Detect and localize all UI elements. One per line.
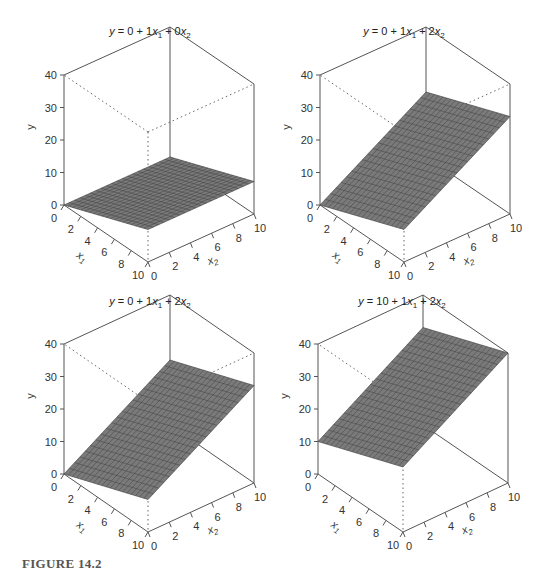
x2-tick-label: 10 [510, 222, 522, 234]
y-tick-label: 20 [45, 134, 57, 146]
x1-tick-label: 6 [356, 516, 362, 528]
x1-tick-label: 8 [118, 258, 124, 270]
x1-tick-label: 8 [373, 527, 379, 539]
y-tick-label: 10 [45, 167, 57, 179]
x2-tick-label: 0 [151, 270, 157, 282]
y-axis-label: y [280, 124, 292, 130]
y-tick-label: 10 [299, 436, 311, 448]
surface-panel-2: 010203040y0246810x10246810x2 [280, 27, 522, 282]
x1-tick-label: 10 [387, 539, 399, 551]
x1-tick-label: 10 [388, 269, 400, 281]
x1-tick-label: 10 [132, 539, 144, 551]
y-axis-label: y [24, 393, 36, 399]
x1-axis-label: x1 [72, 517, 89, 536]
y-tick-label: 0 [307, 199, 313, 211]
x2-axis-label: x2 [205, 521, 221, 539]
x2-tick-label: 4 [449, 251, 455, 263]
x1-tick-label: 2 [324, 223, 330, 235]
y-tick-label: 0 [51, 199, 57, 211]
x1-tick-label: 4 [341, 235, 347, 247]
y-tick-label: 10 [45, 436, 57, 448]
x2-tick-label: 0 [407, 270, 413, 282]
x1-tick-label: 0 [51, 212, 57, 224]
surface-panel-4: 010203040y0246810x10246810x2 [278, 295, 520, 552]
panel-title-2: y = 0 + 1x1 + 2x2 [363, 25, 444, 40]
y-tick-label: 40 [45, 338, 57, 350]
x1-tick-label: 4 [85, 504, 91, 516]
x1-tick-label: 2 [68, 223, 74, 235]
x2-tick-label: 0 [406, 540, 412, 552]
x1-tick-label: 6 [357, 246, 363, 258]
surface-panel-3: 010203040y0246810x10246810x2 [24, 295, 266, 552]
y-axis-label: y [24, 124, 36, 130]
x2-axis-label: x2 [459, 521, 475, 539]
panel-title-4: y = 10 + 1x1 + 2x2 [358, 295, 446, 310]
surface-panel-1: 010203040y0246810x10246810x2 [24, 27, 266, 282]
x2-tick-label: 6 [215, 241, 221, 253]
x1-tick-label: 10 [132, 269, 144, 281]
x2-tick-label: 2 [427, 530, 433, 542]
y-axis-label: y [278, 393, 290, 399]
x1-tick-label: 0 [51, 481, 57, 493]
x1-tick-label: 8 [374, 258, 380, 270]
x2-tick-label: 4 [193, 520, 199, 532]
x1-axis-label: x1 [72, 248, 89, 267]
x1-tick-label: 0 [307, 212, 313, 224]
x2-tick-label: 8 [490, 501, 496, 513]
x1-tick-label: 8 [118, 527, 124, 539]
y-tick-label: 40 [301, 69, 313, 81]
x2-tick-label: 8 [492, 232, 498, 244]
x1-axis-label: x1 [328, 248, 345, 267]
x2-tick-label: 2 [172, 530, 178, 542]
y-tick-label: 30 [45, 102, 57, 114]
x2-tick-label: 8 [236, 232, 242, 244]
y-tick-label: 20 [299, 403, 311, 415]
y-tick-label: 0 [305, 468, 311, 480]
x2-tick-label: 0 [151, 540, 157, 552]
x2-axis-label: x2 [461, 252, 477, 270]
x2-tick-label: 4 [193, 251, 199, 263]
x2-axis-label: x2 [205, 252, 221, 270]
y-tick-label: 0 [51, 468, 57, 480]
plots-canvas: 010203040y0246810x10246810x2010203040y02… [0, 0, 543, 578]
x2-tick-label: 10 [254, 491, 266, 503]
y-tick-label: 20 [301, 134, 313, 146]
x1-tick-label: 4 [85, 235, 91, 247]
y-tick-label: 30 [301, 102, 313, 114]
y-tick-label: 20 [45, 403, 57, 415]
x2-tick-label: 10 [254, 222, 266, 234]
x2-tick-label: 2 [428, 260, 434, 272]
y-tick-label: 40 [45, 69, 57, 81]
y-tick-label: 30 [299, 371, 311, 383]
x1-tick-label: 6 [101, 246, 107, 258]
x1-tick-label: 2 [68, 493, 74, 505]
x1-axis-label: x1 [327, 517, 344, 536]
x2-tick-label: 6 [471, 241, 477, 253]
x2-tick-label: 6 [469, 511, 475, 523]
x1-tick-label: 6 [101, 516, 107, 528]
panel-title-3: y = 0 + 1x1 + 2x2 [109, 295, 190, 310]
x1-tick-label: 4 [339, 504, 345, 516]
x2-tick-label: 10 [508, 491, 520, 503]
y-tick-label: 40 [299, 338, 311, 350]
x2-tick-label: 4 [448, 520, 454, 532]
x2-tick-label: 8 [236, 501, 242, 513]
x1-tick-label: 0 [305, 481, 311, 493]
x2-tick-label: 2 [172, 260, 178, 272]
x1-tick-label: 2 [322, 493, 328, 505]
x2-tick-label: 6 [215, 511, 221, 523]
y-tick-label: 30 [45, 371, 57, 383]
y-tick-label: 10 [301, 167, 313, 179]
figure-14-2: 010203040y0246810x10246810x2010203040y02… [0, 0, 543, 578]
panel-title-1: y = 0 + 1x1 + 0x2 [109, 25, 190, 40]
figure-caption: FIGURE 14.2 [22, 556, 102, 572]
